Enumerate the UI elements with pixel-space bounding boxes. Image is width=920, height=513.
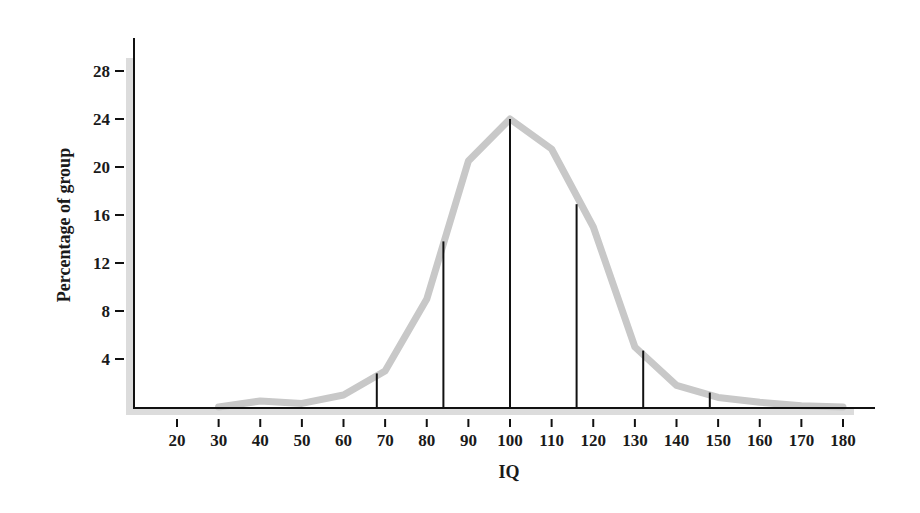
x-tick-label: 120 <box>581 431 607 450</box>
x-tick-label: 170 <box>789 431 815 450</box>
y-tick-label: 20 <box>93 158 110 177</box>
x-tick-label: 110 <box>539 431 564 450</box>
x-tick-label: 40 <box>252 431 269 450</box>
distribution-curve <box>219 119 843 407</box>
x-tick-label: 30 <box>210 431 227 450</box>
x-tick-label: 180 <box>830 431 856 450</box>
y-tick-label: 4 <box>102 350 111 369</box>
x-tick-label: 50 <box>293 431 310 450</box>
x-tick-label: 130 <box>622 431 648 450</box>
x-tick-label: 20 <box>169 431 186 450</box>
x-axis-ticks: 2030405060708090100110120130140150160170… <box>169 419 856 450</box>
x-tick-label: 100 <box>497 431 523 450</box>
x-axis-title: IQ <box>498 462 519 482</box>
y-tick-label: 8 <box>102 302 111 321</box>
y-tick-label: 24 <box>93 110 111 129</box>
x-tick-label: 70 <box>377 431 394 450</box>
y-tick-label: 28 <box>93 62 110 81</box>
x-tick-label: 160 <box>747 431 773 450</box>
x-tick-label: 60 <box>335 431 352 450</box>
x-tick-label: 90 <box>460 431 477 450</box>
y-axis-shadow <box>126 58 134 414</box>
y-tick-label: 12 <box>93 254 110 273</box>
y-tick-label: 16 <box>93 206 110 225</box>
curve-line <box>219 119 843 407</box>
iq-distribution-chart: 481216202428 203040506070809010011012013… <box>0 0 920 513</box>
sd-marker-lines <box>377 119 710 407</box>
x-tick-label: 140 <box>664 431 690 450</box>
x-tick-label: 150 <box>705 431 731 450</box>
x-tick-label: 80 <box>418 431 435 450</box>
y-axis-title: Percentage of group <box>54 148 74 302</box>
y-axis-ticks: 481216202428 <box>93 62 124 369</box>
